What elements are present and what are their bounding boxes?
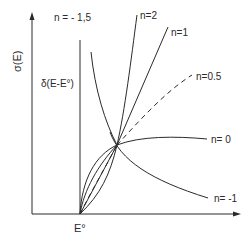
y-axis-arrow-icon [30,12,35,20]
curve-n-minus-1 [110,132,208,198]
label-n-1: n=1 [171,27,188,38]
x-axis-label: E° [74,222,86,234]
curve-n-1 [117,27,168,145]
curve-n-minus-1-5 [91,52,117,145]
curve-n-2 [117,15,137,145]
label-n-0-5: n=0.5 [196,71,222,82]
sigma-vs-energy-diagram: σ(E) E° δ(E-E°) n = - 1,5 n=2 n=1 n=0.5 … [0,0,249,242]
y-axis-label: σ(E) [11,51,23,72]
delta-label: δ(E-E°) [41,78,74,89]
curve-n-0-5-lower [80,145,117,214]
label-n-2: n=2 [140,10,157,21]
curve-n-0-5 [117,75,192,145]
label-n-minus-1-5: n = - 1,5 [54,12,91,23]
label-n-0: n= 0 [211,134,231,145]
curve-n-0 [117,137,207,145]
label-n-minus-1: n= -1 [214,193,238,204]
x-axis-arrow-icon [233,212,241,217]
